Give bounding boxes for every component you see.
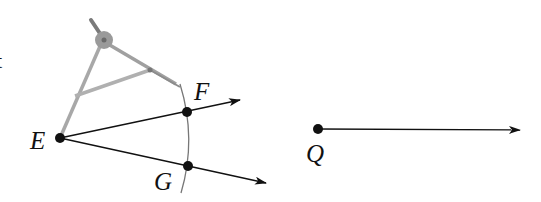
label-f: F — [193, 78, 210, 105]
label-q: Q — [306, 140, 324, 167]
diagram-svg: t E F G Q — [0, 0, 541, 202]
ray-ef — [60, 100, 240, 138]
construction-diagram: t E F G Q — [0, 0, 541, 202]
point-e — [55, 133, 65, 143]
construction-arc — [180, 84, 189, 193]
label-e: E — [29, 127, 45, 154]
point-g — [183, 161, 193, 171]
label-g: G — [154, 168, 172, 195]
point-f — [182, 107, 192, 117]
point-q — [313, 124, 323, 134]
fragment-text: t — [0, 48, 2, 73]
compass-icon — [60, 20, 180, 138]
ray-q — [318, 129, 520, 130]
